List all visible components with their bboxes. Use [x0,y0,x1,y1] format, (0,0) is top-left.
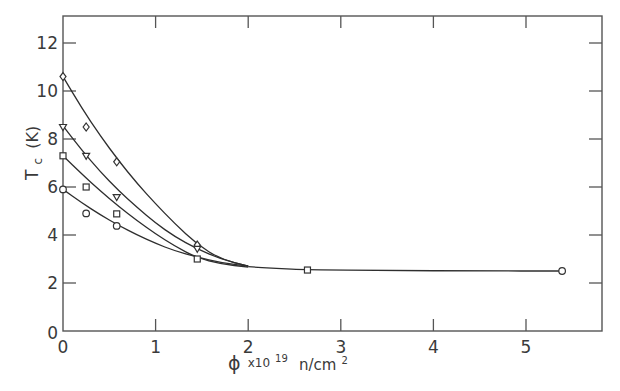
marker-square [114,211,120,217]
marker-diamond [114,158,120,166]
marker-triangle [113,195,120,201]
y-tick-label: 6 [47,177,58,197]
marker-diamond [83,123,89,131]
x-tick-label: 1 [150,337,161,357]
x-tick-label: 5 [521,337,532,357]
y-tick-label: 10 [36,81,58,101]
y-tick-label: 2 [47,273,58,293]
curve-triangle [63,126,248,266]
chart: 012345024681012 ϕ x10 19 n/cm 2 T c (K) [0,0,620,391]
marker-square [304,267,310,273]
tick-labels: 012345024681012 [36,33,531,357]
y-tick-label: 12 [36,33,58,53]
axis-ticks [63,16,602,331]
x-tick-label: 0 [58,337,69,357]
marker-circle [113,223,120,230]
x-tick-label: 2 [243,337,254,357]
curve-diamond [63,77,248,267]
y-axis-label: T c (K) [22,126,46,181]
x-tick-label: 4 [428,337,439,357]
y-tick-label: 8 [47,129,58,149]
curve-square [63,156,248,267]
curve-shared-tail [248,267,562,271]
x-tick-label: 3 [335,337,346,357]
data-markers [60,73,566,275]
plot-frame [63,16,602,331]
marker-circle [83,210,90,217]
marker-square [60,153,66,159]
marker-square [194,256,200,262]
marker-circle [559,268,566,275]
curve-circle [63,189,248,266]
marker-square [83,184,89,190]
y-tick-label: 4 [47,225,58,245]
y-tick-label: 0 [47,323,58,343]
fit-curves [63,77,562,271]
marker-circle [60,186,67,193]
